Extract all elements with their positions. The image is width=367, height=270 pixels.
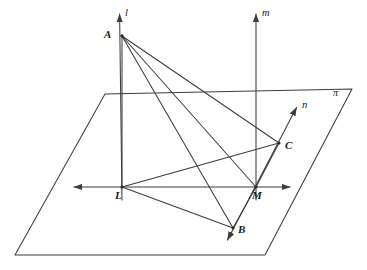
segment-L-C bbox=[122, 143, 279, 187]
segment-A-C bbox=[122, 36, 279, 143]
label-line-n: n bbox=[302, 100, 307, 111]
vertex-dot-A bbox=[120, 34, 123, 37]
segment-A-M bbox=[122, 36, 256, 187]
label-point-c: C bbox=[285, 140, 292, 151]
label-plane-pi: π bbox=[333, 88, 338, 98]
label-line-l: l bbox=[125, 8, 128, 19]
label-line-m: m bbox=[262, 8, 270, 19]
vertex-dot-B bbox=[232, 227, 235, 230]
plane-pi-outline bbox=[15, 89, 352, 255]
segment-M-C bbox=[256, 143, 279, 187]
label-point-l: L bbox=[115, 190, 122, 201]
label-point-b: B bbox=[238, 224, 245, 235]
geometry-canvas bbox=[0, 0, 367, 270]
label-point-m: M bbox=[252, 190, 262, 201]
geometry-figure: A B C L M l m n π bbox=[0, 0, 367, 270]
segment-L-B bbox=[122, 187, 233, 228]
label-point-a: A bbox=[104, 29, 111, 40]
segment-A-B bbox=[122, 36, 233, 228]
vertex-dot-C bbox=[278, 142, 281, 145]
